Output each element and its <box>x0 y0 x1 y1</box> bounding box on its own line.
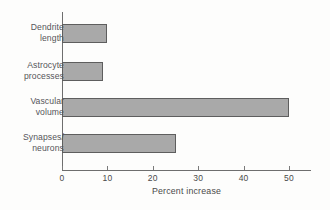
bar <box>62 62 103 81</box>
x-tick-label: 20 <box>148 173 158 183</box>
bar-chart-figure: 01020304050 Dendrite lengthAstrocyte pro… <box>0 0 330 210</box>
x-tick-label: 40 <box>239 173 249 183</box>
x-tick-label: 10 <box>102 173 112 183</box>
x-tick <box>107 166 108 170</box>
bar <box>62 134 176 153</box>
x-axis-title: Percent increase <box>62 186 311 196</box>
category-label: Vascular volume <box>30 96 64 117</box>
bar <box>62 24 107 43</box>
category-label: Synapses/ neurons <box>23 132 64 153</box>
x-tick <box>153 166 154 170</box>
x-tick-label: 50 <box>284 173 294 183</box>
bar <box>62 98 289 117</box>
x-tick-label: 0 <box>60 173 65 183</box>
x-tick <box>198 166 199 170</box>
x-axis-line <box>62 170 311 171</box>
x-tick <box>289 166 290 170</box>
category-label: Astrocyte processes <box>24 60 64 81</box>
x-tick <box>244 166 245 170</box>
plot-area: 01020304050 Dendrite lengthAstrocyte pro… <box>0 0 330 210</box>
category-label: Dendrite length <box>31 22 64 43</box>
x-tick <box>62 166 63 170</box>
x-tick-label: 30 <box>193 173 203 183</box>
